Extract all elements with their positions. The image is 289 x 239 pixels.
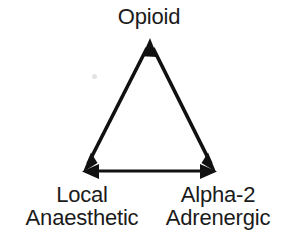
edge-opioid-alpha2-shaft	[153, 48, 211, 164]
edge-local-opioid-shaft	[88, 48, 147, 164]
node-label-opioid: Opioid	[118, 5, 180, 28]
scan-artifact-speck	[92, 74, 97, 79]
node-label-local-anaesthetic-line-1: Local	[26, 183, 139, 206]
node-label-local-anaesthetic-line-2: Anaesthetic	[26, 206, 139, 229]
node-label-alpha-2-adrenergic-line-2: Adrenergic	[166, 206, 270, 229]
edge-opioid-alpha2	[153, 48, 216, 172]
node-label-local-anaesthetic: Local Anaesthetic	[26, 183, 139, 229]
edge-local-opioid	[83, 38, 158, 172]
node-label-alpha-2-adrenergic-line-1: Alpha-2	[166, 183, 270, 206]
edge-local-alpha2	[82, 164, 217, 179]
node-label-opioid-line-1: Opioid	[118, 5, 180, 28]
node-label-alpha-2-adrenergic: Alpha-2 Adrenergic	[166, 183, 270, 229]
triangle-diagram: Opioid Local Anaesthetic Alpha-2 Adrener…	[0, 0, 289, 239]
